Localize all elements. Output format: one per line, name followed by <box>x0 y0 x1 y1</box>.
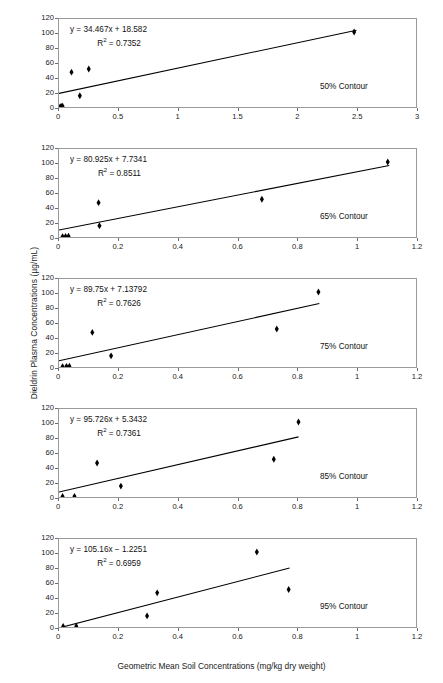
x-tick-mark <box>58 628 59 631</box>
x-tick-label: 1 <box>345 633 369 641</box>
y-tick-label: 0 <box>34 364 54 372</box>
x-tick-label: 3 <box>405 113 429 121</box>
x-tick-mark <box>58 108 59 111</box>
y-tick-mark <box>55 538 58 539</box>
data-point-marker <box>61 493 65 497</box>
y-tick-mark <box>55 63 58 64</box>
x-tick-mark <box>238 368 239 371</box>
equation-annotation-85: y = 95.726x + 5.3432 R2 = 0.7361 <box>70 414 147 439</box>
data-point-marker <box>352 29 356 36</box>
x-tick-label: 0.5 <box>106 113 130 121</box>
y-tick-label: 40 <box>34 464 54 472</box>
x-tick-mark <box>58 238 59 241</box>
data-point-marker <box>72 493 76 497</box>
y-tick-mark <box>55 423 58 424</box>
x-tick-label: 0.2 <box>106 243 130 251</box>
x-tick-label: 0.4 <box>166 503 190 511</box>
x-tick-mark <box>297 238 298 241</box>
y-tick-label: 100 <box>34 419 54 427</box>
x-tick-mark <box>238 238 239 241</box>
x-tick-label: 0.8 <box>285 243 309 251</box>
x-tick-mark <box>118 498 119 501</box>
x-tick-label: 0.8 <box>285 373 309 381</box>
x-tick-label: 0 <box>46 113 70 121</box>
equation-annotation-65: y = 80.925x + 7.7341 R2 = 0.8511 <box>70 154 147 179</box>
data-point-marker <box>386 159 390 166</box>
x-tick-label: 0 <box>46 633 70 641</box>
y-tick-label: 60 <box>34 189 54 197</box>
x-tick-mark <box>297 368 298 371</box>
y-tick-label: 80 <box>34 44 54 52</box>
y-tick-mark <box>55 353 58 354</box>
x-tick-label: 0.8 <box>285 503 309 511</box>
y-tick-label: 120 <box>34 14 54 22</box>
x-tick-label: 1 <box>345 373 369 381</box>
y-tick-label: 40 <box>34 74 54 82</box>
data-point-marker <box>67 363 71 367</box>
y-tick-mark <box>55 338 58 339</box>
x-tick-mark <box>178 628 179 631</box>
x-tick-label: 2 <box>285 113 309 121</box>
y-tick-mark <box>55 293 58 294</box>
x-tick-mark <box>297 108 298 111</box>
y-tick-label: 40 <box>34 204 54 212</box>
x-tick-mark <box>118 368 119 371</box>
data-point-marker <box>272 456 276 463</box>
x-tick-label: 0.8 <box>285 633 309 641</box>
x-tick-label: 0 <box>46 373 70 381</box>
y-tick-label: 40 <box>34 334 54 342</box>
y-tick-mark <box>55 583 58 584</box>
x-tick-label: 0.4 <box>166 633 190 641</box>
x-tick-label: 0.6 <box>226 243 250 251</box>
data-point-marker <box>67 233 71 237</box>
y-tick-mark <box>55 323 58 324</box>
x-tick-label: 1.5 <box>226 113 250 121</box>
x-tick-label: 0.6 <box>226 503 250 511</box>
x-tick-label: 0.2 <box>106 633 130 641</box>
figure-container: Dieldrin Plasma Concentrations (µg/mL) y… <box>0 0 443 683</box>
y-tick-label: 60 <box>34 449 54 457</box>
data-point-marker <box>61 623 65 627</box>
regression-line <box>59 304 319 361</box>
data-point-marker <box>145 612 149 619</box>
x-tick-mark <box>417 498 418 501</box>
y-tick-label: 60 <box>34 579 54 587</box>
x-tick-mark <box>178 498 179 501</box>
x-tick-mark <box>238 628 239 631</box>
contour-label-75: 75% Contour <box>320 342 368 351</box>
x-tick-mark <box>417 368 418 371</box>
data-point-marker <box>78 92 82 99</box>
y-tick-label: 100 <box>34 29 54 37</box>
chart-panel-50: y = 34.467x + 18.582 R2 = 0.7352 50% Con… <box>0 0 443 130</box>
contour-label-50: 50% Contour <box>320 82 368 91</box>
y-tick-label: 20 <box>34 479 54 487</box>
y-tick-mark <box>55 553 58 554</box>
x-tick-label: 0.6 <box>226 633 250 641</box>
x-tick-mark <box>118 108 119 111</box>
data-point-marker <box>287 586 291 593</box>
y-tick-mark <box>55 308 58 309</box>
equation-annotation-50: y = 34.467x + 18.582 R2 = 0.7352 <box>70 24 147 49</box>
x-tick-mark <box>417 628 418 631</box>
y-tick-label: 120 <box>34 144 54 152</box>
x-tick-mark <box>58 498 59 501</box>
equation-annotation-95: y = 105.16x − 1.2251 R2 = 0.6959 <box>70 544 147 569</box>
regression-line <box>59 437 298 492</box>
x-tick-label: 1.2 <box>405 503 429 511</box>
y-tick-mark <box>55 48 58 49</box>
equation-annotation-75: y = 89.75x + 7.13792 R2 = 0.7626 <box>70 284 147 309</box>
x-tick-label: 0.4 <box>166 373 190 381</box>
x-tick-mark <box>58 368 59 371</box>
data-point-marker <box>275 326 279 333</box>
x-tick-mark <box>417 108 418 111</box>
x-tick-label: 1 <box>345 243 369 251</box>
x-tick-label: 1.2 <box>405 243 429 251</box>
data-point-marker <box>97 199 101 206</box>
x-tick-label: 2.5 <box>345 113 369 121</box>
x-tick-label: 0.4 <box>166 243 190 251</box>
y-tick-mark <box>55 468 58 469</box>
contour-label-95: 95% Contour <box>320 602 368 611</box>
y-tick-mark <box>55 78 58 79</box>
y-tick-label: 60 <box>34 59 54 67</box>
x-tick-mark <box>238 108 239 111</box>
